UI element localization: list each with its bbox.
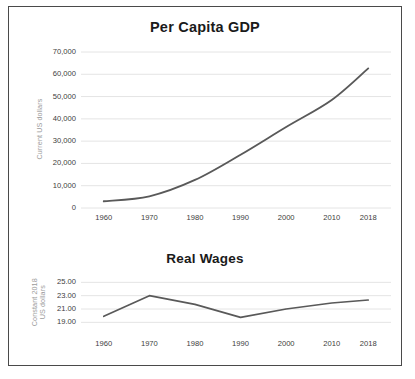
data-series-line bbox=[104, 296, 368, 318]
y-tick-label: 10,000 bbox=[53, 181, 76, 190]
y-tick-label: 21.00 bbox=[57, 304, 76, 313]
y-tick-label: 25.00 bbox=[57, 277, 76, 286]
y-tick-label: 19.00 bbox=[57, 317, 76, 326]
x-tick-label: 1990 bbox=[221, 339, 261, 348]
y-tick-label: 20,000 bbox=[53, 158, 76, 167]
x-tick-label: 1970 bbox=[129, 213, 169, 222]
data-series-line bbox=[104, 68, 368, 201]
y-tick-label: 23.00 bbox=[57, 291, 76, 300]
x-tick-label: 2010 bbox=[312, 339, 352, 348]
x-tick-label: 1970 bbox=[129, 339, 169, 348]
x-tick-label: 2010 bbox=[312, 213, 352, 222]
x-tick-label: 1960 bbox=[84, 213, 124, 222]
y-tick-label: 70,000 bbox=[53, 47, 76, 56]
y-tick-label: 60,000 bbox=[53, 69, 76, 78]
chart-real-wages: Real Wages Constant 2018 US dollars 19.0… bbox=[9, 229, 401, 365]
y-tick-label: 0 bbox=[72, 203, 76, 212]
y-tick-label: 50,000 bbox=[53, 92, 76, 101]
x-tick-label: 1980 bbox=[175, 339, 215, 348]
x-tick-label: 2018 bbox=[348, 339, 388, 348]
x-tick-label: 1990 bbox=[221, 213, 261, 222]
x-tick-label: 2000 bbox=[266, 339, 306, 348]
chart-per-capita-gdp: Per Capita GDP Current US dollars 010,00… bbox=[9, 7, 401, 229]
figure-frame: Per Capita GDP Current US dollars 010,00… bbox=[8, 6, 402, 366]
x-tick-label: 1980 bbox=[175, 213, 215, 222]
x-tick-label: 1960 bbox=[84, 339, 124, 348]
x-tick-label: 2018 bbox=[348, 213, 388, 222]
x-tick-label: 2000 bbox=[266, 213, 306, 222]
y-tick-label: 40,000 bbox=[53, 114, 76, 123]
y-tick-label: 30,000 bbox=[53, 136, 76, 145]
